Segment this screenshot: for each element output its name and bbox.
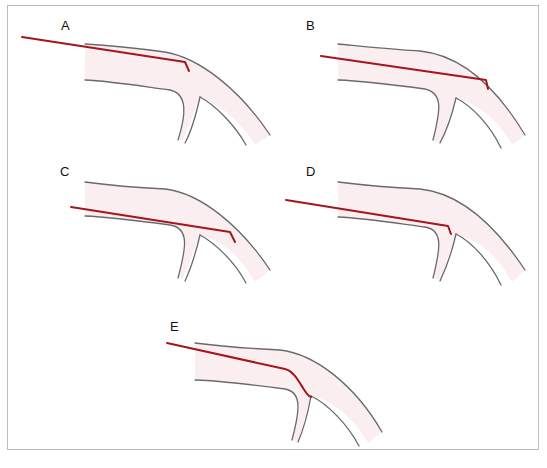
panel-e: E — [167, 319, 382, 446]
panel-d: D — [286, 164, 525, 285]
panel-label-b: B — [306, 18, 315, 33]
panel-label-e: E — [170, 319, 179, 334]
vessel-lower-wall — [195, 380, 298, 440]
panel-label-d: D — [306, 164, 315, 179]
panel-label-c: C — [60, 164, 69, 179]
panel-c: C — [60, 164, 270, 283]
panel-label-a: A — [61, 18, 70, 33]
panel-a: A — [22, 18, 270, 145]
panel-b: B — [306, 18, 525, 148]
vessel-lower-wall — [85, 216, 185, 278]
vessel-lower-wall — [338, 80, 439, 140]
vessel-diagram: A B C D E — [0, 0, 547, 468]
